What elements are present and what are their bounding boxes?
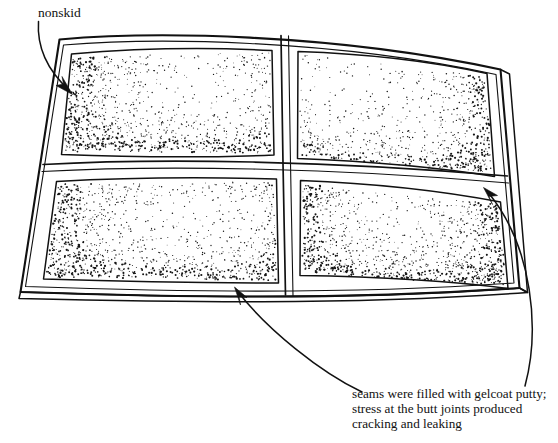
figure-root: nonskid seams were filled with gelcoat p… [0,0,558,443]
panel-lower-right [300,181,508,289]
nonskid-panel-illustration: nonskid seams were filled with gelcoat p… [0,0,558,443]
panel-upper-right-border [298,52,495,177]
assembly-right-thickness [501,70,528,293]
seam-lower-leader-line [239,293,363,393]
seam-vertical [281,36,293,296]
caption-block: seams were filled with gelcoat putty; st… [352,386,546,431]
annotation-seam-lower [235,287,363,392]
caption-line-3: cracking and leaking [352,416,462,431]
panel-lower-left-stipple [46,182,277,281]
panel-upper-right [298,52,495,177]
caption-line-2: stress at the butt joints produced [352,401,523,416]
panel-upper-left-border [62,49,275,157]
nonskid-label: nonskid [38,5,81,20]
caption-line-1: seams were filled with gelcoat putty; [352,386,546,401]
panel-lower-right-stipple [301,185,504,286]
panel-upper-left-stipple [65,53,272,154]
assembly-bottom-thickness [19,288,528,302]
panel-upper-left [62,49,275,157]
panel-lower-left [44,178,279,283]
panel-lower-left-border [44,178,279,283]
annotation-nonskid: nonskid [38,5,81,95]
panel-upper-right-stipple [299,55,491,172]
